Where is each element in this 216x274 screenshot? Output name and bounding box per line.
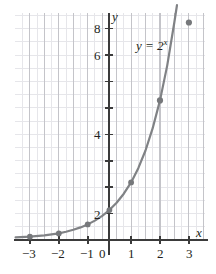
y-tick-label-2: 2	[94, 208, 101, 221]
y-tick-label-6: 6	[94, 49, 101, 62]
x-tick-label-neg2: −2	[51, 247, 65, 260]
data-point	[186, 19, 192, 25]
x-axis-label: x	[196, 226, 202, 239]
x-tick-label-neg3: −3	[22, 247, 36, 260]
data-point	[128, 180, 134, 186]
y-axis-label: y	[112, 10, 118, 23]
x-tick-label-neg1: −1	[80, 247, 94, 260]
x-tick-label-2: 2	[157, 247, 164, 260]
exponential-function-graph: 2 4 6 8 −3 −2 −1 0 1 2 3 y x y = 2x	[0, 0, 216, 274]
data-point	[27, 234, 33, 240]
curve-equation-exponent: x	[164, 37, 168, 47]
y-tick-label-4: 4	[94, 128, 101, 141]
data-point	[56, 231, 62, 237]
x-tick-label-1: 1	[128, 247, 135, 260]
data-point	[157, 97, 163, 103]
curve-equation-annotation: y = 2x	[136, 39, 168, 52]
data-point	[85, 222, 91, 228]
x-tick-label-0: 0	[99, 247, 106, 260]
x-tick-label-3: 3	[186, 247, 193, 260]
plot-canvas	[0, 0, 216, 274]
curve-equation-base: y = 2	[136, 38, 164, 53]
data-point	[107, 207, 113, 213]
y-tick-label-8: 8	[94, 22, 101, 35]
grid-major-vertical	[30, 13, 203, 240]
